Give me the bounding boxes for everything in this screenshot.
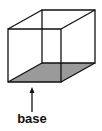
base-pointer-arrow-icon	[30, 87, 35, 112]
cube-base-face	[8, 63, 95, 82]
base-label: base	[0, 111, 64, 126]
